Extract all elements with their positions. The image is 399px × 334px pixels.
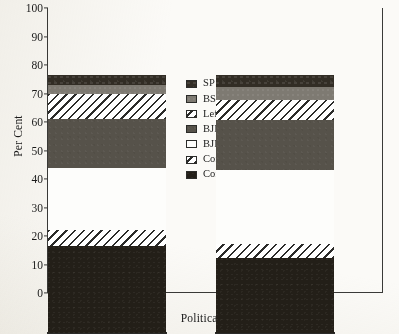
legend-swatch-icon bbox=[186, 140, 197, 148]
legend-label: SP bbox=[203, 78, 215, 89]
bar-segment-bsp bbox=[48, 85, 166, 94]
legend-swatch-icon bbox=[186, 110, 197, 118]
y-axis-tick-mark bbox=[44, 64, 49, 65]
bar-segment-bjp bbox=[216, 170, 334, 243]
y-axis-title: Per Cent bbox=[12, 96, 24, 176]
legend-swatch-icon bbox=[186, 95, 197, 103]
bar-segment-bjp-allies bbox=[216, 120, 334, 170]
y-axis-tick-mark bbox=[44, 7, 49, 8]
legend-swatch-icon bbox=[186, 171, 197, 179]
legend-swatch-icon bbox=[186, 125, 197, 133]
y-axis-tick-mark bbox=[44, 36, 49, 37]
bar-segment-congress bbox=[216, 258, 334, 333]
bar-segment-sp bbox=[216, 75, 334, 87]
bar-segment-bjp-allies bbox=[48, 119, 166, 167]
stacked-bar-chart: Per Cent 0102030405060708090100FemaleMal… bbox=[0, 0, 399, 334]
bar-segment-bsp bbox=[216, 87, 334, 100]
legend-swatch-icon bbox=[186, 156, 197, 164]
bar-segment-bjp bbox=[48, 168, 166, 230]
bar-segment-sp bbox=[48, 75, 166, 85]
bar-segment-congress bbox=[48, 246, 166, 333]
bar-segment-left- bbox=[216, 100, 334, 121]
bar-segment-congress-allies bbox=[216, 244, 334, 258]
bar-segment-congress-allies bbox=[48, 230, 166, 247]
plot-frame-right bbox=[382, 8, 383, 293]
bar-segment-left- bbox=[48, 94, 166, 119]
legend-swatch-icon bbox=[186, 80, 197, 88]
